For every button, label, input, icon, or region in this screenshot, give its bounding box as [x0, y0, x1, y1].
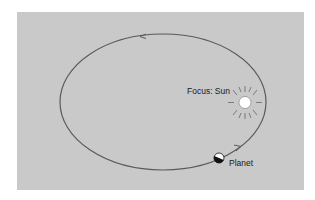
planet-icon: [214, 153, 224, 163]
orbit-path: [60, 34, 266, 170]
sun-label: Focus: Sun: [187, 86, 230, 96]
planet-label: Planet: [229, 158, 253, 168]
orbit-diagram: [0, 0, 315, 200]
sun-icon: [228, 86, 262, 119]
